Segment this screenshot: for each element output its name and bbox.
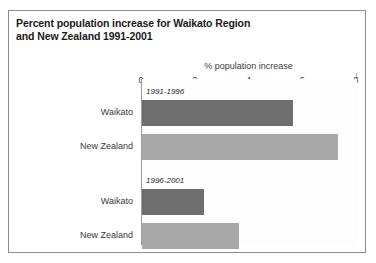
bar-1996-2001-new-zealand — [142, 223, 239, 249]
category-label-waikato: Waikato — [9, 107, 133, 117]
category-label-new-zealand: New Zealand — [9, 230, 133, 240]
plot-area: 1991-19961996-2001 — [141, 79, 357, 245]
chart-title-line-2: and New Zealand 1991-2001 — [16, 30, 316, 43]
category-label-waikato: Waikato — [9, 196, 133, 206]
group-label-1996-2001: 1996-2001 — [146, 176, 184, 185]
chart-title-line-1: Percent population increase for Waikato … — [16, 17, 316, 30]
bar-1996-2001-waikato — [142, 189, 204, 215]
x-axis-label: % population increase — [141, 61, 356, 71]
bar-1991-1996-new-zealand — [142, 134, 338, 160]
category-label-new-zealand: New Zealand — [9, 141, 133, 151]
chart-figure: Percent population increase for Waikato … — [8, 10, 366, 253]
chart-title: Percent population increase for Waikato … — [16, 17, 316, 43]
bar-1991-1996-waikato — [142, 100, 293, 126]
group-label-1991-1996: 1991-1996 — [146, 87, 184, 96]
